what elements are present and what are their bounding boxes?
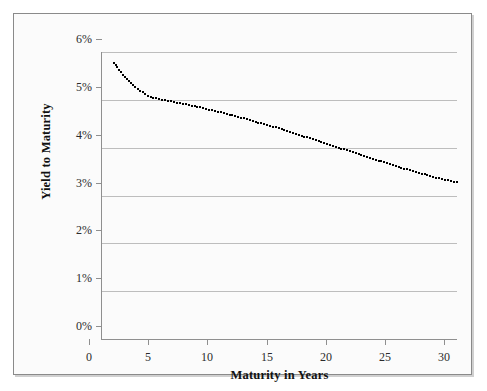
- chart-figure: 0%1%2%3%4%5%6% 051015202530 Yield to Mat…: [0, 0, 487, 391]
- y-tick: 2%: [48, 224, 92, 236]
- y-tick-mark: [96, 183, 102, 184]
- series-point: [329, 144, 331, 146]
- series-point: [283, 129, 285, 131]
- y-tick-mark: [96, 39, 102, 40]
- series-point: [173, 101, 175, 103]
- series-point: [185, 103, 187, 105]
- series-point: [338, 147, 340, 149]
- series-point: [409, 169, 411, 171]
- series-point: [179, 102, 181, 104]
- series-point: [306, 136, 308, 138]
- y-tick: 5%: [48, 81, 92, 93]
- x-tick-mark: [148, 339, 149, 345]
- series-point: [435, 177, 437, 179]
- series-point: [295, 133, 297, 135]
- series-point: [415, 171, 417, 173]
- series-point: [378, 160, 380, 162]
- x-tick-mark: [326, 339, 327, 345]
- series-point: [298, 134, 300, 136]
- series-point: [292, 132, 294, 134]
- series-point: [231, 114, 233, 116]
- series-point: [191, 105, 193, 107]
- series-point: [429, 175, 431, 177]
- series-point: [266, 124, 268, 126]
- series-point: [170, 100, 172, 102]
- y-tick-label: 6%: [52, 33, 92, 45]
- series-point: [386, 162, 388, 164]
- series-point: [275, 126, 277, 128]
- series-point: [372, 158, 374, 160]
- x-tick-mark: [207, 339, 208, 345]
- series-point: [418, 172, 420, 174]
- y-tick-mark: [96, 87, 102, 88]
- series-point: [289, 131, 291, 133]
- series-point: [260, 122, 262, 124]
- series-point: [237, 116, 239, 118]
- series-point: [286, 130, 288, 132]
- y-tick-label: 0%: [52, 320, 92, 332]
- series-point: [358, 153, 360, 155]
- series-point: [340, 148, 342, 150]
- series-point: [323, 142, 325, 144]
- y-tick-mark: [96, 135, 102, 136]
- series-point: [320, 141, 322, 143]
- series-point: [161, 99, 163, 101]
- series-point: [450, 180, 452, 182]
- series-point: [363, 155, 365, 157]
- gridline-4: [102, 148, 457, 149]
- series-point: [158, 98, 160, 100]
- series-point: [167, 100, 169, 102]
- series-point: [346, 149, 348, 151]
- x-tick-mark: [89, 339, 90, 345]
- series-point: [335, 146, 337, 148]
- series-point: [234, 115, 236, 117]
- series-point: [211, 109, 213, 111]
- y-tick-label: 3%: [52, 177, 92, 189]
- gridline-6: [102, 52, 457, 53]
- series-point: [202, 107, 204, 109]
- series-point: [453, 181, 455, 183]
- series-point: [220, 111, 222, 113]
- x-tick-label: 0: [69, 350, 109, 364]
- series-point: [243, 117, 245, 119]
- series-point: [214, 110, 216, 112]
- x-axis-line: [102, 339, 457, 340]
- series-point: [196, 106, 198, 108]
- series-point: [269, 125, 271, 127]
- series-point: [272, 126, 274, 128]
- series-point: [441, 178, 443, 180]
- series-point: [352, 151, 354, 153]
- y-tick-mark: [96, 326, 102, 327]
- gridline-1: [102, 291, 457, 292]
- series-point: [199, 106, 201, 108]
- y-tick-mark: [96, 230, 102, 231]
- x-tick-label: 10: [187, 350, 227, 364]
- x-tick-label: 20: [306, 350, 346, 364]
- series-point: [380, 160, 382, 162]
- x-tick-label: 15: [247, 350, 287, 364]
- series-point: [424, 173, 426, 175]
- series-point: [249, 119, 251, 121]
- x-tick-label: 5: [128, 350, 168, 364]
- y-tick: 6%: [48, 33, 92, 45]
- series-point: [432, 176, 434, 178]
- gridline-5: [102, 100, 457, 101]
- series-point: [281, 128, 283, 130]
- series-point: [349, 150, 351, 152]
- plot-area: [102, 52, 457, 339]
- series-point: [150, 96, 152, 98]
- series-point: [309, 137, 311, 139]
- series-point: [355, 152, 357, 154]
- series-point: [392, 164, 394, 166]
- series-point: [332, 145, 334, 147]
- series-point: [278, 127, 280, 129]
- series-point: [252, 120, 254, 122]
- y-axis-title: Yield to Maturity: [39, 72, 54, 232]
- series-point: [208, 109, 210, 111]
- series-point: [255, 121, 257, 123]
- series-point: [421, 173, 423, 175]
- y-tick-mark: [96, 278, 102, 279]
- series-point: [223, 112, 225, 114]
- series-point: [315, 139, 317, 141]
- series-point: [194, 105, 196, 107]
